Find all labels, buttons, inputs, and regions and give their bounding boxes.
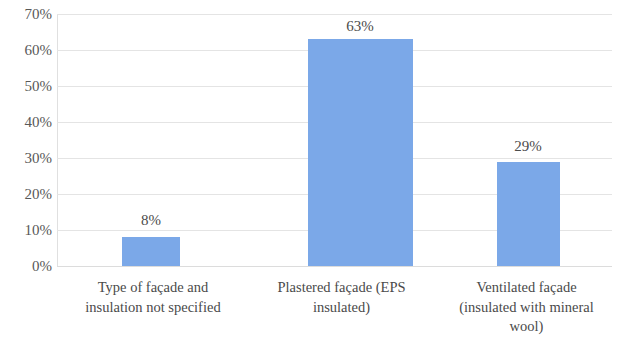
y-axis-tick-30: 30% [2,151,52,166]
gridline-70 [57,14,612,15]
y-axis-tick-0: 0% [2,259,52,274]
bar-value-label-1: 8% [92,213,210,228]
bar-value-label-3: 29% [469,139,587,154]
y-axis-tick-labels: 70% 60% 50% 40% 30% 20% 10% 0% [0,0,52,345]
y-axis-tick-10: 10% [2,223,52,238]
category-label-ventilated-facade-insulated-with-mineral-wool: Ventilated façade (insulated with minera… [434,278,619,337]
category-label-line: insulated) [249,298,434,318]
y-axis-tick-70: 70% [2,7,52,22]
category-label-line: Ventilated façade [434,278,619,298]
y-axis-tick-60: 60% [2,43,52,58]
category-label-line: Plastered façade (EPS [249,278,434,298]
category-label-line: insulation not specified [57,298,249,318]
bar-ventilated-facade-insulated-with-mineral-wool[interactable] [497,162,560,266]
category-label-line: (insulated with mineral [434,298,619,318]
gridline-0 [57,266,612,267]
y-axis-tick-20: 20% [2,187,52,202]
category-label-plastered-facade-eps-insulated: Plastered façade (EPS insulated) [249,278,434,317]
category-label-line: Type of façade and [57,278,249,298]
category-label-line: wool) [434,317,619,337]
y-axis-tick-40: 40% [2,115,52,130]
bar-chart: 70% 60% 50% 40% 30% 20% 10% 0% 8% 63% 29… [0,0,619,345]
bar-type-of-facade-and-insulation-not-specified[interactable] [122,237,180,266]
category-label-type-of-facade-and-insulation-not-specified: Type of façade and insulation not specif… [57,278,249,317]
bar-plastered-facade-eps-insulated[interactable] [308,39,413,266]
y-axis-tick-50: 50% [2,79,52,94]
bar-value-label-2: 63% [301,19,419,34]
